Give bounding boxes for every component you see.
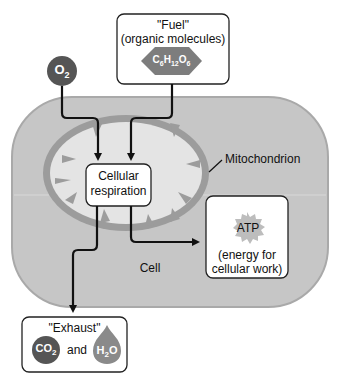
atp-label: ATP xyxy=(230,221,266,235)
process-line1: Cellular xyxy=(86,169,151,183)
atp-desc-line1: (energy for xyxy=(206,248,288,262)
exhaust-title: "Exhaust" xyxy=(22,321,127,335)
atp-desc-line2: cellular work) xyxy=(206,262,288,276)
mitochondrion-label: Mitochondrion xyxy=(225,152,300,166)
exhaust-and: and xyxy=(62,343,92,357)
fuel-subtitle: (organic molecules) xyxy=(117,32,229,46)
h2o-formula: H2O xyxy=(93,344,121,359)
cell-label: Cell xyxy=(130,261,170,275)
process-line2: respiration xyxy=(86,184,151,198)
fuel-title: "Fuel" xyxy=(117,18,229,32)
glucose-formula: C6H12O6 xyxy=(141,54,202,67)
oxygen-formula: O2 xyxy=(47,62,77,80)
co2-formula: CO2 xyxy=(32,342,60,357)
